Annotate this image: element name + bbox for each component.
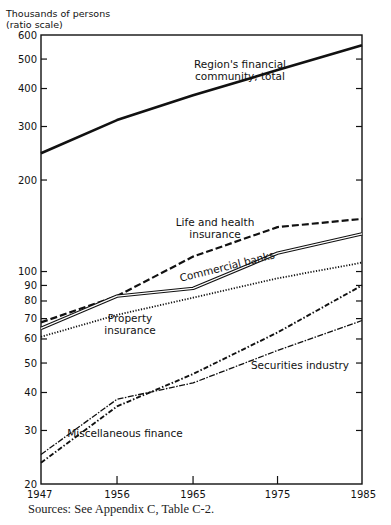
- series-label-text: Commercial banks: [178, 249, 275, 284]
- y-tick-label: 100: [18, 266, 37, 277]
- y-tick-label: 20: [24, 479, 37, 490]
- x-tick-label: 1965: [180, 489, 205, 500]
- y-tick-label: 50: [24, 358, 37, 369]
- series-label-3: Propertyinsurance: [104, 312, 155, 336]
- y-tick-label: 30: [24, 425, 37, 436]
- series-line-2: [41, 234, 362, 329]
- series-label-text: Region's financial: [194, 58, 286, 70]
- series-label-text: Property: [108, 312, 152, 324]
- y-axis-title: Thousands of persons (ratio scale): [5, 8, 110, 30]
- line-chart: Thousands of persons (ratio scale) 20304…: [0, 0, 391, 525]
- series-label-1: Life and healthinsurance: [176, 216, 255, 240]
- y-tick-label: 40: [24, 387, 37, 398]
- x-axis-ticks: 19471956196519751985: [27, 476, 376, 500]
- series-label-text: community, total: [195, 70, 285, 82]
- x-tick-label: 1975: [265, 489, 290, 500]
- series-label-text: Miscellaneous finance: [67, 427, 183, 439]
- y-tick-label: 90: [24, 280, 37, 291]
- y-tick-label: 600: [18, 30, 37, 41]
- y-tick-label: 60: [24, 333, 37, 344]
- series-label-text: Securities industry: [251, 359, 349, 371]
- plot-frame: [41, 35, 362, 484]
- x-tick-label: 1956: [104, 489, 129, 500]
- y-axis-note: (ratio scale): [6, 19, 63, 30]
- series-label-text: insurance: [104, 324, 155, 336]
- series-label-0: Region's financialcommunity, total: [194, 58, 286, 82]
- y-tick-label: 300: [18, 121, 37, 132]
- series-label-text: Life and health: [176, 216, 255, 228]
- y-tick-label: 400: [18, 83, 37, 94]
- y-tick-label: 70: [24, 313, 37, 324]
- series-labels: Region's financialcommunity, totalLife a…: [67, 58, 349, 439]
- y-tick-label: 200: [18, 175, 37, 186]
- source-note: Sources: See Appendix C, Table C-2.: [28, 502, 214, 517]
- y-axis-ticks: 2030405060708090100200300400500600: [18, 30, 362, 490]
- y-tick-label: 500: [18, 54, 37, 65]
- y-tick-label: 80: [24, 295, 37, 306]
- x-tick-label: 1947: [27, 489, 52, 500]
- series-label-4: Securities industry: [251, 359, 349, 371]
- series-label-5: Miscellaneous finance: [67, 427, 183, 439]
- y-axis-label: Thousands of persons: [5, 8, 110, 19]
- x-tick-label: 1985: [351, 489, 376, 500]
- series-label-2: Commercial banks: [178, 249, 275, 284]
- series-label-text: insurance: [189, 228, 240, 240]
- series-lines: [41, 45, 362, 462]
- series-line-2: [41, 234, 362, 329]
